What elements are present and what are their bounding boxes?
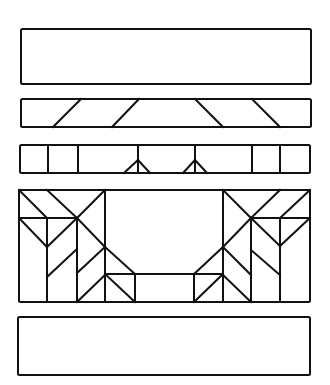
pattern-line <box>223 218 251 247</box>
pattern-line <box>105 247 135 274</box>
pattern-line <box>77 218 105 247</box>
pattern-line <box>223 275 251 302</box>
pattern-line <box>124 160 138 173</box>
pattern-line <box>105 274 135 302</box>
panel-border <box>19 190 310 302</box>
pattern-line <box>195 160 207 173</box>
pattern-line <box>194 274 223 302</box>
pattern-line <box>194 247 223 274</box>
pattern-line <box>251 218 280 246</box>
panel-border <box>21 99 311 127</box>
pattern-line <box>77 190 105 218</box>
pattern-line <box>223 247 251 275</box>
panel-plain-top <box>21 29 311 84</box>
pattern-line <box>19 218 47 247</box>
pattern-line <box>112 99 139 127</box>
panel-border <box>18 317 310 375</box>
pattern-line <box>19 190 47 218</box>
pattern-line <box>183 160 195 173</box>
pattern-line <box>280 218 310 246</box>
pattern-line <box>77 247 105 273</box>
pattern-line <box>47 249 77 277</box>
pattern-line <box>223 190 251 218</box>
pattern-line <box>138 160 150 173</box>
pattern-line <box>77 275 105 302</box>
diagram-canvas <box>0 0 330 385</box>
panel-vertical-arrow-strip <box>20 145 310 173</box>
panel-geometric-pattern <box>19 190 310 302</box>
pattern-line <box>53 99 81 127</box>
panel-border <box>20 145 310 173</box>
panel-plain-bottom <box>18 317 310 375</box>
pattern-line <box>47 218 77 247</box>
pattern-line <box>47 190 77 218</box>
pattern-line <box>251 250 280 275</box>
panel-diagonal-strip <box>21 99 311 127</box>
pattern-line <box>195 99 223 127</box>
pattern-line <box>252 99 280 127</box>
pattern-line <box>280 190 310 218</box>
pattern-line <box>251 190 280 218</box>
panel-border <box>21 29 311 84</box>
